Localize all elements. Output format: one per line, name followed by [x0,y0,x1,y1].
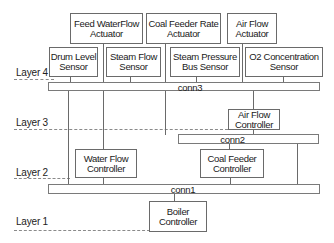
air-flow-actuator: Air FlowActuator [227,13,277,44]
connector-conn3-airflow-ctrl [253,90,254,109]
connector-conn3-conn1-a [68,90,69,184]
layer-1-label: Layer 1 [16,216,48,227]
connector-conn3-waterflow [103,90,104,149]
actuator-label: Actuator [236,29,269,39]
actuator-label: Actuator [74,29,139,39]
actuator-label: Air Flow [236,19,269,29]
feed-waterflow-actuator: Feed WaterFlowActuator [70,13,143,44]
controller-label: Boiler [159,207,197,217]
connector-airflow-actuator [242,44,243,83]
controller-label: Controller [159,217,197,227]
controller-label: Controller [235,120,273,130]
controller-label: Water Flow [84,154,129,164]
drum-level-sensor: Drum LevelSensor [49,47,98,77]
layer-2-divider [14,178,70,179]
actuator-label: Actuator [148,29,218,39]
layer-2-label: Layer 2 [16,167,48,178]
boiler-controller: BoilerController [149,201,207,232]
actuator-label: Coal Feeder Rate [148,19,218,29]
o2-concentration-sensor: O2 ConcentrationSensor [245,47,323,77]
connector-feedwater-actuator [103,44,104,83]
connector-coalfeeder-actuator [165,44,166,83]
air-flow-controller: Air FlowController [228,109,280,130]
steam-pressure-bus-sensor: Steam PressureBus Sensor [170,47,240,77]
actuator-label: Feed WaterFlow [74,19,139,29]
conn2-label: conn2 [220,135,244,144]
layer-3-divider [14,129,228,130]
layer-4-divider [14,79,54,80]
conn1-bus: conn1 [48,184,320,194]
sensor-label: Sensor [249,62,319,72]
sensor-label: Sensor [110,62,157,72]
controller-label: Controller [84,164,129,174]
connector-conn3-coalfeeder-rate [165,90,166,135]
conn1-label: conn1 [171,185,195,194]
sensor-label: Bus Sensor [173,62,237,72]
layer-4-label: Layer 4 [16,67,48,78]
conn3-bus: conn3 [48,82,320,91]
controller-label: Controller [208,164,257,174]
layer-1-divider [14,230,150,231]
steam-flow-sensor: Steam FlowSensor [106,47,161,77]
conn2-bus: conn2 [178,134,319,144]
water-flow-controller: Water FlowController [75,149,137,178]
layer-3-label: Layer 3 [16,117,48,128]
sensor-label: Sensor [51,62,97,72]
controller-label: Air Flow [235,110,273,120]
controller-label: Coal Feeder [208,154,257,164]
conn3-label: conn3 [178,83,202,92]
coal-feeder-rate-actuator: Coal Feeder RateActuator [146,13,221,44]
connector-conn2-conn1 [297,143,298,184]
coal-feeder-controller: Coal FeederController [200,149,264,178]
